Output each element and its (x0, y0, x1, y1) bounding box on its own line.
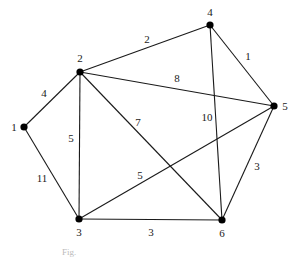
nodes-group (20, 21, 277, 223)
node-2 (76, 68, 83, 75)
node-label-1: 1 (11, 121, 17, 133)
node-3 (75, 215, 82, 222)
node-label-5: 5 (282, 100, 288, 112)
node-label-2: 2 (77, 52, 83, 64)
edge-2-6 (80, 72, 222, 220)
node-label-6: 6 (219, 227, 225, 239)
edge-weight-4-6: 10 (202, 111, 214, 123)
node-1 (20, 123, 27, 130)
node-label-3: 3 (76, 226, 82, 238)
node-4 (206, 21, 213, 28)
edge-2-3 (79, 72, 80, 219)
edge-weight-1-2: 4 (41, 87, 47, 99)
node-label-4: 4 (207, 6, 213, 18)
edge-weight-2-3: 5 (68, 132, 74, 144)
edges-group (24, 25, 274, 220)
edge-1-2 (24, 72, 80, 127)
edge-weight-1-3: 11 (37, 172, 48, 184)
edge-weight-2-6: 7 (135, 116, 141, 128)
edge-3-6 (79, 219, 222, 220)
edge-weight-2-5: 8 (174, 72, 180, 84)
figure-caption: Fig. (62, 247, 76, 257)
edge-3-5 (79, 106, 274, 219)
node-5 (270, 102, 277, 109)
node-6 (218, 216, 225, 223)
edge-weight-3-5: 5 (137, 169, 143, 181)
edge-weight-5-6: 3 (254, 160, 260, 172)
edge-weight-3-6: 3 (148, 226, 154, 238)
edge-5-6 (222, 106, 274, 220)
edge-weight-labels: 4281571011533 (37, 33, 261, 238)
edge-4-5 (210, 25, 274, 106)
edge-weight-4-5: 1 (245, 50, 251, 62)
node-labels: 123456 (11, 6, 288, 239)
edge-weight-2-4: 2 (144, 33, 150, 45)
